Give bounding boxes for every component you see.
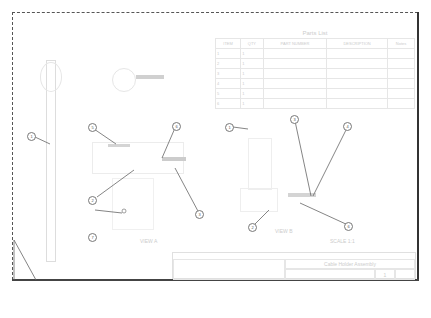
title-block-dwg-no [285,269,375,280]
balloon-2b: 2 [248,223,257,232]
balloon-6: 6 [172,122,181,131]
balloon-4: 4 [343,122,352,131]
balloon-5: 5 [88,123,97,132]
balloon-1b: 1 [225,123,234,132]
balloon-3b: 3 [290,115,299,124]
balloon-6b: 6 [344,222,353,231]
title-block: Cable Holder Assembly 1 [172,252,416,279]
title-block-company [173,259,285,280]
view-b-label: VIEW B [275,228,293,234]
view-a-label: VIEW A [140,238,157,244]
balloon-1: 1 [27,132,36,141]
title-block-rev [395,269,415,280]
balloon-2: 2 [88,196,97,205]
title-block-title: Cable Holder Assembly [285,259,415,269]
balloon-7: 7 [88,233,97,242]
sheet-note: SCALE 1:1 [330,238,355,244]
balloon-3: 3 [195,210,204,219]
title-block-sheet: 1 [375,269,395,280]
